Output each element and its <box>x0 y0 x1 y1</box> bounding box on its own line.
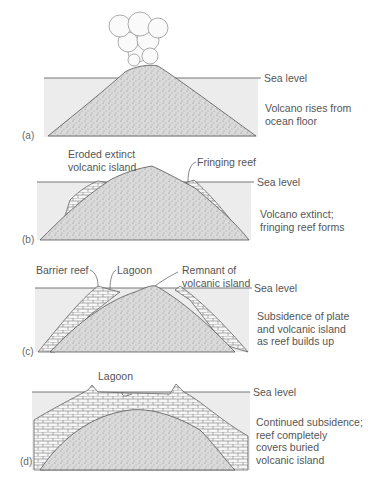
panel-c <box>35 286 252 352</box>
label-fringing-reef: Fringing reef <box>197 156 256 168</box>
panel-b <box>37 166 254 240</box>
caption-c: Subsidence of plate and volcanic island … <box>257 310 349 348</box>
sea-level-label-a: Sea level <box>264 72 307 84</box>
label-barrier-reef: Barrier reef <box>36 264 89 276</box>
panel-id-c: (c) <box>22 346 34 357</box>
panel-id-a: (a) <box>22 130 34 141</box>
label-lagoon-c: Lagoon <box>117 264 152 276</box>
caption-a: Volcano rises from ocean floor <box>265 102 351 127</box>
label-remnant-island: Remnant of volcanic island <box>182 264 250 289</box>
caption-d: Continued subsidence; reef completely co… <box>256 416 363 466</box>
atoll-formation-diagram <box>0 0 371 478</box>
sea-level-label-c: Sea level <box>254 282 297 294</box>
panel-a <box>44 12 261 137</box>
eruption-cloud <box>109 12 168 66</box>
label-lagoon-d: Lagoon <box>98 370 133 382</box>
panel-id-b: (b) <box>22 234 34 245</box>
panel-d <box>32 384 250 470</box>
sea-level-label-d: Sea level <box>253 386 296 398</box>
label-eroded-island: Eroded extinct volcanic island <box>68 148 136 173</box>
sea-level-label-b: Sea level <box>257 176 300 188</box>
caption-b: Volcano extinct; fringing reef forms <box>260 208 345 233</box>
panel-id-d: (d) <box>20 456 32 467</box>
